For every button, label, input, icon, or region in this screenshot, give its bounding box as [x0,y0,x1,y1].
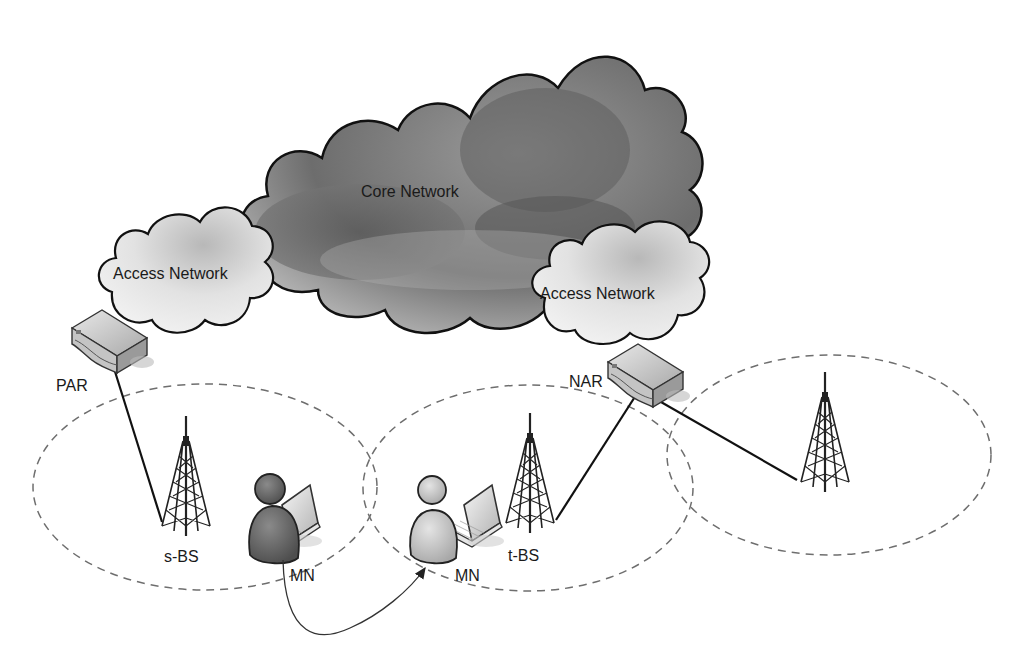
diagram-canvas [0,0,1030,665]
source-bs-label: s-BS [164,549,199,565]
wired-links [112,362,797,522]
link-nar-third-bs [640,390,797,480]
nar-router-icon [608,344,690,407]
mobile-node-new-icon [410,476,504,563]
access-network-right-label: Access Network [540,286,655,302]
nar-label: NAR [569,374,603,390]
target-bs-label: t-BS [508,548,539,564]
mobile-node-old-icon [249,474,322,563]
third-bs-tower-icon [801,372,849,492]
core-network-label: Core Network [361,184,459,200]
link-par-sbs [112,362,162,522]
par-label: PAR [56,378,88,394]
access-network-left-label: Access Network [113,266,228,282]
mobile-node-new-label: MN [455,568,480,584]
coverage-cell-third [667,355,991,555]
handover-diagram: Core Network Access Network Access Netwo… [0,0,1030,665]
coverage-cell-source [33,384,377,590]
link-nar-tbs [556,392,638,520]
target-bs-tower-icon [506,413,554,533]
mobile-node-old-label: MN [290,568,315,584]
source-bs-tower-icon [162,416,210,536]
